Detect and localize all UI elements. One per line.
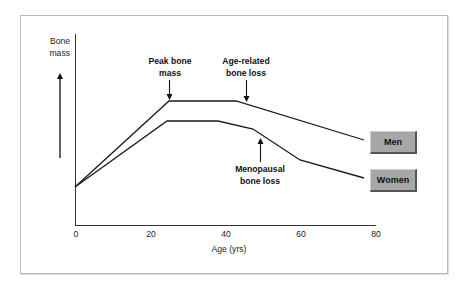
arrow-up-icon (258, 138, 264, 162)
annotation-age-1: Age-related (222, 56, 269, 66)
y-axis-label-2: mass (49, 48, 70, 58)
x-tick-80: 80 (371, 229, 381, 239)
annotation-peak-2: mass (159, 68, 181, 78)
legend-men: Men (370, 131, 417, 154)
x-tick-60: 60 (296, 229, 306, 239)
x-tick-40: 40 (221, 229, 231, 239)
series-women-line (75, 121, 364, 187)
arrow-up-icon (57, 73, 63, 158)
arrow-down-icon (167, 80, 173, 100)
x-tick-20: 20 (146, 229, 156, 239)
annotation-age-2: bone loss (226, 68, 266, 78)
annotation-meno-2: bone loss (240, 176, 280, 186)
y-axis-label-1: Bone (50, 36, 70, 46)
arrow-down-icon (244, 80, 250, 102)
annotation-peak-1: Peak bone (149, 56, 192, 66)
x-tick-0: 0 (74, 229, 79, 239)
x-axis-label: Age (yrs) (212, 244, 247, 254)
legend-women: Women (370, 169, 417, 192)
series-men-line (75, 101, 364, 187)
annotation-meno-1: Menopausal (235, 164, 285, 174)
